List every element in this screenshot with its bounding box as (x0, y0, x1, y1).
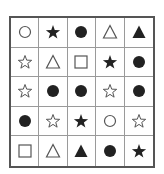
grid-cell-r1-c3 (68, 18, 96, 48)
circle-filled-icon (131, 54, 147, 70)
grid-cell-r2-c2 (39, 48, 67, 78)
grid-cell-r1-c1 (11, 18, 39, 48)
star-filled-icon (45, 24, 61, 40)
grid-cell-r3-c2 (39, 77, 67, 107)
grid-cell-r1-c5 (125, 18, 153, 48)
circle-filled-icon (102, 143, 118, 159)
grid-cell-r2-c1 (11, 48, 39, 78)
square-outline-icon (73, 54, 89, 70)
circle-outline-icon (102, 113, 118, 129)
triangle-outline-icon (45, 54, 61, 70)
circle-outline-icon (17, 24, 33, 40)
grid-cell-r4-c2 (39, 107, 67, 137)
grid-cell-r3-c5 (125, 77, 153, 107)
grid-cell-r4-c3 (68, 107, 96, 137)
square-outline-icon (17, 143, 33, 159)
grid-cell-r3-c3 (68, 77, 96, 107)
grid-cell-r2-c4 (96, 48, 124, 78)
circle-filled-icon (73, 24, 89, 40)
grid-cell-r2-c3 (68, 48, 96, 78)
triangle-outline-icon (102, 24, 118, 40)
grid-cell-r3-c1 (11, 77, 39, 107)
star-outline-icon (102, 83, 118, 99)
grid-cell-r1-c2 (39, 18, 67, 48)
shape-grid (9, 16, 155, 168)
star-outline-icon (17, 83, 33, 99)
star-outline-icon (45, 113, 61, 129)
triangle-outline-icon (45, 143, 61, 159)
grid-cell-r4-c4 (96, 107, 124, 137)
circle-filled-icon (73, 83, 89, 99)
circle-filled-icon (131, 83, 147, 99)
grid-cell-r4-c1 (11, 107, 39, 137)
grid-cell-r5-c1 (11, 136, 39, 166)
circle-filled-icon (17, 113, 33, 129)
star-filled-icon (102, 54, 118, 70)
circle-filled-icon (45, 83, 61, 99)
star-filled-icon (131, 143, 147, 159)
grid-cell-r5-c4 (96, 136, 124, 166)
triangle-filled-icon (73, 143, 89, 159)
grid-cell-r4-c5 (125, 107, 153, 137)
star-outline-icon (131, 113, 147, 129)
triangle-filled-icon (131, 24, 147, 40)
grid-cell-r5-c5 (125, 136, 153, 166)
star-outline-icon (17, 54, 33, 70)
star-filled-icon (73, 113, 89, 129)
grid-cell-r2-c5 (125, 48, 153, 78)
grid-cell-r1-c4 (96, 18, 124, 48)
grid-cell-r3-c4 (96, 77, 124, 107)
grid-cell-r5-c3 (68, 136, 96, 166)
grid-cell-r5-c2 (39, 136, 67, 166)
